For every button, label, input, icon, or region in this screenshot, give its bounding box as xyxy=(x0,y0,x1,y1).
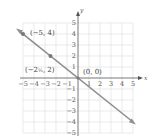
coordinate-plane: x y −5 −4 −3 −2 −1 1 2 3 4 5 5 4 3 2 1 −… xyxy=(0,0,153,137)
x-axis-label: x xyxy=(144,74,148,81)
svg-text:−4: −4 xyxy=(66,118,76,126)
x-axis-arrow-icon xyxy=(138,76,143,80)
svg-text:−4: −4 xyxy=(29,80,39,88)
x-tick-labels: −5 −4 −3 −2 −1 1 2 3 4 5 xyxy=(18,80,135,88)
point-origin xyxy=(76,76,79,79)
point-neg2half-2 xyxy=(49,54,53,58)
point-label-neg2half-2: (−2½, 2) xyxy=(25,66,55,74)
svg-text:5: 5 xyxy=(72,19,76,27)
svg-text:5: 5 xyxy=(131,80,135,88)
svg-text:4: 4 xyxy=(120,80,124,88)
point-label-neg5-4: (−5, 4) xyxy=(30,29,55,37)
svg-text:4: 4 xyxy=(72,30,76,38)
svg-text:−1: −1 xyxy=(66,85,76,93)
svg-text:−2: −2 xyxy=(51,80,61,88)
point-neg5-4 xyxy=(21,32,25,36)
svg-text:2: 2 xyxy=(72,52,76,60)
svg-text:−5: −5 xyxy=(18,80,28,88)
svg-text:3: 3 xyxy=(72,41,76,49)
point-label-origin: (0, 0) xyxy=(83,68,102,76)
svg-text:−3: −3 xyxy=(66,107,76,115)
y-axis-label: y xyxy=(79,6,84,14)
svg-text:−3: −3 xyxy=(40,80,50,88)
svg-text:2: 2 xyxy=(98,80,102,88)
svg-text:−2: −2 xyxy=(66,96,76,104)
svg-text:−5: −5 xyxy=(66,129,76,137)
svg-text:1: 1 xyxy=(72,63,76,71)
svg-text:3: 3 xyxy=(109,80,113,88)
